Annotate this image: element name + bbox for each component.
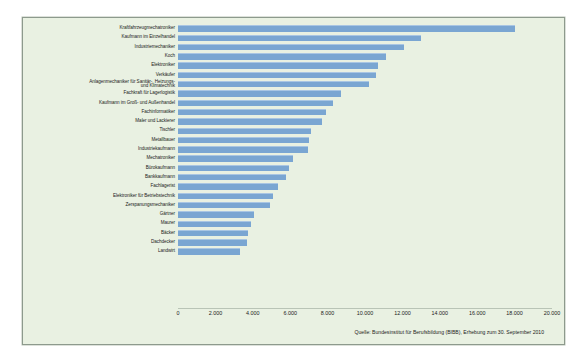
bar-category-label: Mechatroniker: [15, 156, 175, 161]
bar-fill: [178, 53, 386, 59]
bar-category-label: Landwirt: [15, 249, 175, 254]
bar-track: [178, 43, 552, 52]
bar-category-label: Industriekaufmann: [15, 147, 175, 152]
bar-fill: [178, 44, 404, 50]
bar-track: [178, 210, 552, 219]
bar-row: Kaufmann im Groß- und Außenhandel: [23, 98, 564, 107]
bar-fill: [178, 128, 311, 134]
bar-track: [178, 219, 552, 228]
bar-row: Zerspanungsmechaniker: [23, 201, 564, 210]
bar-category-label: Dachdecker: [15, 240, 175, 245]
x-axis-line: [178, 308, 552, 309]
x-tick-label: 12.000: [394, 310, 411, 316]
bar-fill: [178, 193, 273, 199]
bar-row: Koch: [23, 52, 564, 61]
bar-row: Bankkaufmann: [23, 173, 564, 182]
bar-category-label: Elektroniker: [15, 63, 175, 68]
bar-track: [178, 145, 552, 154]
bar-fill: [178, 146, 308, 152]
bar-track: [178, 61, 552, 70]
bar-category-label: Gärtner: [15, 212, 175, 217]
bar-row: Maler und Lackierer: [23, 117, 564, 126]
bar-fill: [178, 221, 251, 227]
x-tick-label: 14.000: [432, 310, 449, 316]
bar-fill: [178, 165, 289, 171]
bar-category-label: Verkäufer: [15, 73, 175, 78]
bar-row: Bäcker: [23, 229, 564, 238]
bar-fill: [178, 230, 248, 236]
source-note: Quelle: Bundesinstitut für Berufsbildung…: [23, 329, 550, 335]
bar-fill: [178, 137, 309, 143]
bar-category-label: Kaufmann im Einzelhandel: [15, 35, 175, 40]
bar-fill: [178, 155, 293, 161]
bar-category-label: Fachkraft für Lagerlogistik: [15, 91, 175, 96]
bar-row: Industriekaufmann: [23, 145, 564, 154]
chart-panel: KraftfahrzeugmechatronikerKaufmann im Ei…: [22, 17, 565, 345]
x-tick-label: 18.000: [506, 310, 523, 316]
bar-track: [178, 52, 552, 61]
bar-fill: [178, 25, 515, 31]
bar-row: Mechatroniker: [23, 154, 564, 163]
bar-row: Anlagenmechaniker für Sanitär-, Heizungs…: [23, 80, 564, 89]
x-tick-label: 6.000: [283, 310, 297, 316]
bar-category-label: Tischler: [15, 128, 175, 133]
bar-category-label: Bürokaufmann: [15, 166, 175, 171]
bar-category-label: Bankkaufmann: [15, 175, 175, 180]
x-tick-label: 4.000: [246, 310, 260, 316]
bar-category-label: Fachlagerist: [15, 184, 175, 189]
bar-row: Metallbauer: [23, 136, 564, 145]
bar-row: Tischler: [23, 126, 564, 135]
bar-track: [178, 229, 552, 238]
bar-track: [178, 98, 552, 107]
bar-row: Elektroniker für Betriebstechnik: [23, 191, 564, 200]
bar-fill: [178, 72, 376, 78]
bar-category-label: Metallbauer: [15, 138, 175, 143]
bar-row: Bürokaufmann: [23, 163, 564, 172]
bar-category-label: Bäcker: [15, 231, 175, 236]
x-tick-label: 20.000: [544, 310, 561, 316]
bar-category-label: Maler und Lackierer: [15, 119, 175, 124]
bar-row: Elektroniker: [23, 61, 564, 70]
x-tick-label: 2.000: [209, 310, 223, 316]
bar-fill: [178, 109, 326, 115]
bar-track: [178, 24, 552, 33]
bar-row: Landwirt: [23, 247, 564, 256]
bar-row: Kraftfahrzeugmechatroniker: [23, 24, 564, 33]
screenshot-page: KraftfahrzeugmechatronikerKaufmann im Ei…: [0, 0, 587, 364]
bar-track: [178, 117, 552, 126]
x-axis-tick-labels: 02.0004.0006.0008.00010.00012.00014.0001…: [178, 310, 552, 324]
bar-category-label: Anlagenmechaniker für Sanitär-, Heizungs…: [15, 80, 175, 90]
bar-track: [178, 191, 552, 200]
bar-row: Fachlagerist: [23, 182, 564, 191]
bar-fill: [178, 183, 278, 189]
bar-category-label: Koch: [15, 54, 175, 59]
bar-fill: [178, 35, 421, 41]
bar-row: Kaufmann im Einzelhandel: [23, 33, 564, 42]
bar-track: [178, 238, 552, 247]
bar-fill: [178, 118, 322, 124]
bar-fill: [178, 211, 254, 217]
bar-track: [178, 154, 552, 163]
bar-row: Gärtner: [23, 210, 564, 219]
bar-row: Fachinformatiker: [23, 108, 564, 117]
bar-category-label: Industriemechaniker: [15, 45, 175, 50]
bar-track: [178, 33, 552, 42]
bar-fill: [178, 100, 333, 106]
bar-fill: [178, 239, 247, 245]
bar-category-label: Elektroniker für Betriebstechnik: [15, 194, 175, 199]
bar-fill: [178, 202, 270, 208]
x-tick-label: 10.000: [357, 310, 374, 316]
bar-track: [178, 70, 552, 79]
bar-category-label: Zerspanungsmechaniker: [15, 203, 175, 208]
bar-category-label: Fachinformatiker: [15, 110, 175, 115]
x-tick-label: 8.000: [321, 310, 335, 316]
bar-row: Fachkraft für Lagerlogistik: [23, 89, 564, 98]
bar-category-label: Kraftfahrzeugmechatroniker: [15, 26, 175, 31]
bar-chart-plot-area: KraftfahrzeugmechatronikerKaufmann im Ei…: [23, 24, 564, 308]
bar-track: [178, 136, 552, 145]
bar-track: [178, 173, 552, 182]
bar-fill: [178, 62, 378, 68]
bar-row: Industriemechaniker: [23, 43, 564, 52]
bar-track: [178, 108, 552, 117]
bar-category-label: Maurer: [15, 221, 175, 226]
